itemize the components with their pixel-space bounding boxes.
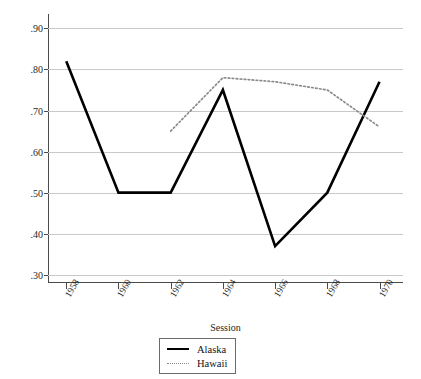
y-tick-label: .80	[31, 64, 44, 75]
series-layer	[48, 14, 403, 283]
legend-swatch-dotted-icon	[165, 358, 191, 368]
chart-container: Mean % of Dems in House .90.80.70.60.50.…	[0, 0, 421, 379]
chart-legend: Alaska Hawaii	[159, 338, 236, 374]
y-tick-label: .50	[31, 187, 44, 198]
series-line-hawaii	[171, 78, 380, 131]
y-tick-label: .70	[31, 105, 44, 116]
legend-swatch-solid-icon	[165, 344, 191, 354]
y-tick-label: .60	[31, 146, 44, 157]
legend-item-hawaii: Hawaii	[165, 356, 227, 370]
x-axis-title: Session	[48, 322, 403, 333]
plot-area: .90.80.70.60.50.40.30 195819601962196419…	[48, 14, 403, 283]
legend-label-hawaii: Hawaii	[197, 358, 227, 369]
series-line-alaska	[66, 61, 379, 246]
y-tick-label: .30	[31, 269, 44, 280]
legend-item-alaska: Alaska	[165, 342, 227, 356]
legend-label-alaska: Alaska	[197, 344, 226, 355]
y-tick-label: .90	[31, 23, 44, 34]
y-tick-label: .40	[31, 228, 44, 239]
